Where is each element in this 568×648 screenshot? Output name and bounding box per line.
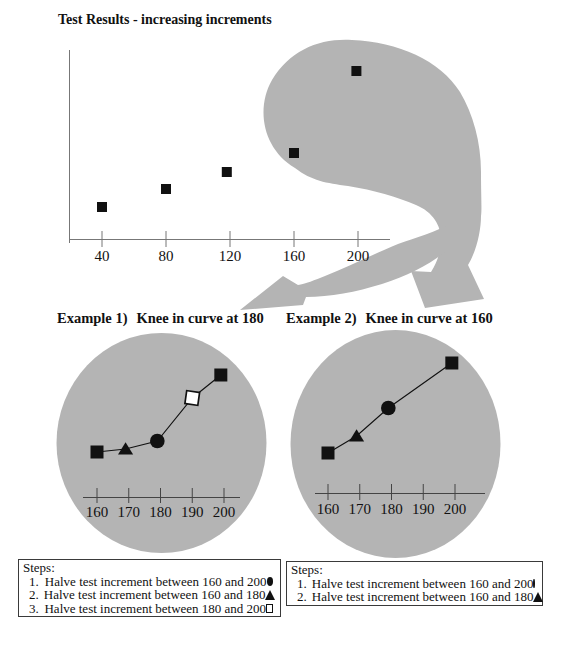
steps-heading: Steps: [23,561,275,575]
x-tick-label: 200 [347,248,370,264]
x-tick-label: 200 [213,504,236,520]
step-item: 2. Halve test increment between 160 and … [291,590,537,604]
steps-heading: Steps: [291,563,537,577]
circle-marker-icon [150,434,165,449]
x-tick-label: 170 [118,504,141,520]
steps-box-example2: Steps: 1. Halve test increment between 1… [286,561,543,606]
x-tick-label: 180 [380,501,403,517]
open-square-marker-icon [185,391,200,406]
square-marker-icon [161,184,171,194]
example1-title-text: Knee in curve at 180 [136,310,263,326]
square-marker-icon [97,202,107,212]
x-tick-label: 160 [86,504,109,520]
step-item: 1. Halve test increment between 160 and … [23,575,275,589]
example2-title-text: Knee in curve at 160 [365,310,492,326]
example1-title: Example 1)Knee in curve at 180 [57,310,264,327]
step-item: 1. Halve test increment between 160 and … [291,577,537,591]
x-tick-label: 180 [149,504,172,520]
left-arrow-band-shape [240,222,452,310]
square-marker-icon [351,66,361,76]
square-marker-icon [322,447,335,460]
x-tick-label: 160 [317,501,340,517]
square-marker-icon [222,167,232,177]
square-marker-icon [289,148,299,158]
example2-zoom-circle [291,330,501,558]
steps-box-example1: Steps: 1. Halve test increment between 1… [18,559,281,617]
circle-marker-icon [267,577,274,586]
x-tick-label: 120 [219,248,242,264]
square-marker-icon [91,446,104,459]
open-square-marker-icon [266,604,273,613]
x-tick-label: 40 [95,248,110,264]
step-item: 3. Halve test increment between 180 and … [23,602,275,616]
step-item: 2. Halve test increment between 160 and … [23,588,275,602]
x-tick-label: 160 [283,248,306,264]
example1-title-prefix: Example 1) [57,310,127,326]
circle-marker-icon [533,579,535,588]
x-tick-label: 190 [412,501,435,517]
triangle-marker-icon [533,592,543,602]
circle-marker-icon [381,401,396,416]
x-tick-label: 170 [349,501,372,517]
x-tick-label: 80 [159,248,174,264]
square-marker-icon [214,369,227,382]
x-tick-label: 200 [444,501,467,517]
square-marker-icon [445,357,458,370]
example2-title: Example 2)Knee in curve at 160 [286,310,493,327]
example2-title-prefix: Example 2) [286,310,356,326]
x-tick-label: 190 [181,504,204,520]
figure: 4080120160200 160170180190200 1601701801… [0,0,568,648]
main-chart-title: Test Results - increasing increments [58,12,272,28]
triangle-marker-icon [265,590,275,600]
